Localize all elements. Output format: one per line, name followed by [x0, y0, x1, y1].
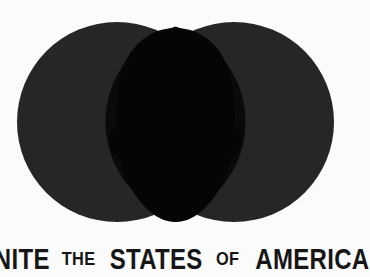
venn-head-artwork: [0, 0, 351, 240]
caption-word-the: THE: [62, 249, 96, 268]
caption-word-america: AMERICA: [256, 244, 370, 274]
caption: UNITE THE STATES OF AMERICA: [0, 240, 351, 277]
caption-word-states: STATES: [110, 244, 203, 274]
caption-word-of: OF: [216, 249, 239, 268]
caption-word-unite: UNITE: [0, 244, 50, 274]
